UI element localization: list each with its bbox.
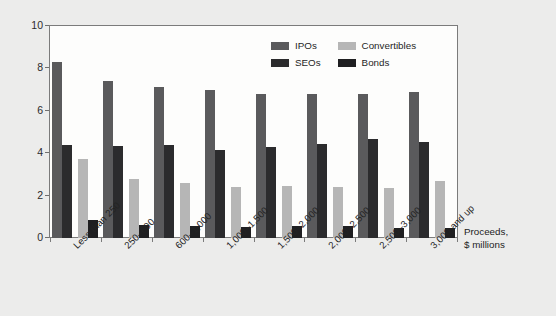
y-tick-label: 6	[37, 104, 43, 116]
legend-label: SEOs	[295, 57, 321, 68]
legend-swatch-icon	[338, 59, 356, 67]
x-axis-title: Proceeds, $ millions	[464, 226, 508, 251]
legend-item: IPOs	[271, 40, 321, 51]
x-axis-title-line2: $ millions	[464, 239, 508, 252]
bar-seos	[215, 150, 225, 238]
bar-group	[203, 26, 254, 238]
x-tick-mark	[50, 238, 51, 242]
y-tick-label: 2	[37, 189, 43, 201]
bar-ipos	[154, 87, 164, 238]
bar-seos	[62, 145, 72, 238]
bar-ipos	[52, 62, 62, 238]
x-axis-labels: Less than 250250–600600–1,0001,000–1,500…	[50, 243, 460, 313]
chart-legend: IPOsConvertiblesSEOsBonds	[271, 40, 416, 68]
legend-label: IPOs	[295, 40, 317, 51]
legend-item: Bonds	[338, 57, 416, 68]
x-axis-title-line1: Proceeds,	[464, 226, 508, 239]
legend-label: Convertibles	[362, 40, 416, 51]
y-tick-label: 8	[37, 61, 43, 73]
x-tick-mark	[406, 238, 407, 242]
legend-swatch-icon	[271, 59, 289, 67]
legend-item: SEOs	[271, 57, 321, 68]
bar-seos	[419, 142, 429, 238]
y-tick-label: 10	[31, 19, 43, 31]
legend-swatch-icon	[338, 42, 356, 50]
y-tick-label: 4	[37, 146, 43, 158]
y-axis-ticks: 0246810	[0, 25, 50, 238]
bar-seos	[164, 145, 174, 238]
x-tick-mark	[101, 238, 102, 242]
chart-figure: Total direct costs, % 0246810 Less than …	[0, 0, 556, 316]
y-tick-label: 0	[37, 231, 43, 243]
x-tick-mark	[203, 238, 204, 242]
x-tick-mark	[355, 238, 356, 242]
bar-seos	[368, 139, 378, 238]
bar-group	[50, 26, 101, 238]
legend-swatch-icon	[271, 42, 289, 50]
bar-group	[152, 26, 203, 238]
x-tick-mark	[152, 238, 153, 242]
bar-seos	[266, 147, 276, 238]
x-tick-mark	[304, 238, 305, 242]
x-tick-mark	[457, 238, 458, 242]
bar-seos	[113, 146, 123, 238]
bar-seos	[317, 144, 327, 238]
legend-label: Bonds	[362, 57, 390, 68]
x-tick-mark	[254, 238, 255, 242]
legend-item: Convertibles	[338, 40, 416, 51]
